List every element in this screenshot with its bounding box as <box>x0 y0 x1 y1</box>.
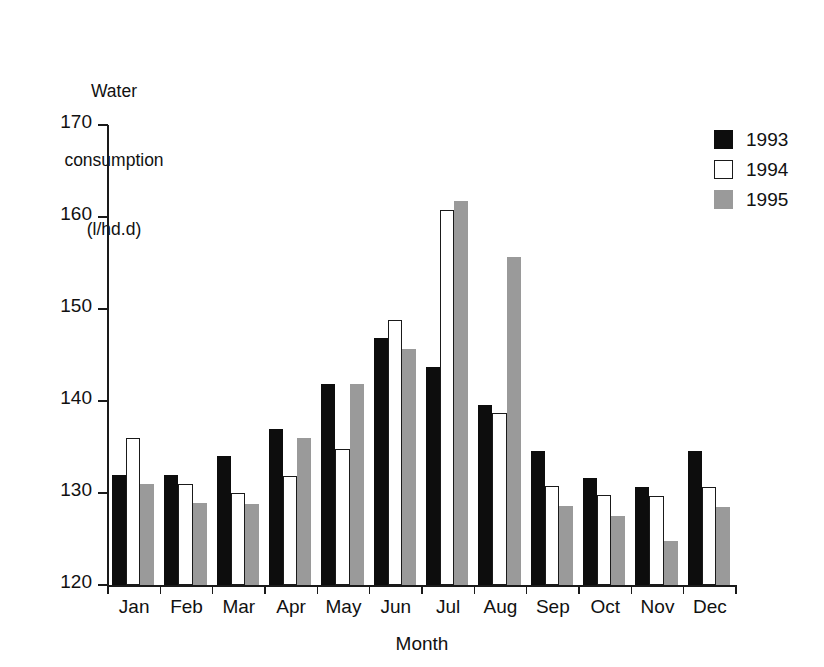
bar-feb-1995 <box>193 503 207 585</box>
x-axis-label-apr: Apr <box>276 597 306 617</box>
y-axis-title-line-1: Water <box>44 80 184 103</box>
x-tick-4 <box>317 585 319 594</box>
legend-label-1993: 1993 <box>746 130 788 149</box>
legend-item-1994[interactable]: 1994 <box>714 156 818 183</box>
bar-group-jun <box>374 125 417 585</box>
bar-aug-1993 <box>478 405 492 585</box>
bar-apr-1995 <box>297 438 311 585</box>
bar-jun-1994 <box>388 320 402 585</box>
bar-group-may <box>321 125 364 585</box>
water-consumption-bar-chart: Water consumption (l/hd.d) 1701601501401… <box>0 0 824 667</box>
bar-mar-1994 <box>231 493 245 585</box>
y-axis-line <box>107 125 109 586</box>
bar-nov-1995 <box>664 541 678 585</box>
x-tick-10 <box>631 585 633 594</box>
bar-aug-1995 <box>507 257 521 585</box>
y-tick-label-160: 160 <box>60 204 92 223</box>
bar-sep-1993 <box>531 451 545 585</box>
legend-swatch-1994-icon <box>714 160 733 179</box>
x-axis-label-jan: Jan <box>119 597 150 617</box>
bar-group-feb <box>164 125 207 585</box>
x-tick-7 <box>474 585 476 594</box>
bar-aug-1994 <box>492 413 506 585</box>
y-tick-label-130: 130 <box>60 480 92 499</box>
x-tick-5 <box>369 585 371 594</box>
y-tick-170: 170 <box>98 124 108 126</box>
bar-jan-1995 <box>140 484 154 585</box>
x-axis-label-dec: Dec <box>693 597 727 617</box>
legend-item-1995[interactable]: 1995 <box>714 186 818 213</box>
bar-may-1993 <box>321 384 335 585</box>
bar-group-sep <box>531 125 574 585</box>
bar-oct-1994 <box>597 495 611 585</box>
bar-dec-1995 <box>716 507 730 585</box>
bar-group-aug <box>478 125 521 585</box>
bar-feb-1994 <box>178 484 192 585</box>
y-tick-140: 140 <box>98 400 108 402</box>
bar-oct-1995 <box>611 516 625 585</box>
y-tick-label-170: 170 <box>60 112 92 131</box>
bar-dec-1993 <box>688 451 702 585</box>
bar-jun-1995 <box>402 349 416 585</box>
bar-group-mar <box>217 125 260 585</box>
legend-swatch-1993-icon <box>714 130 733 149</box>
bar-group-nov <box>635 125 678 585</box>
bar-group-apr <box>269 125 312 585</box>
bar-apr-1994 <box>283 476 297 585</box>
x-axis-label-oct: Oct <box>590 597 620 617</box>
y-tick-130: 130 <box>98 492 108 494</box>
x-tick-9 <box>578 585 580 594</box>
bar-dec-1994 <box>702 487 716 585</box>
x-axis-label-may: May <box>326 597 362 617</box>
x-axis-label-jun: Jun <box>381 597 412 617</box>
plot-area: 170160150140130120 JanFebMarAprMayJunJul… <box>108 125 736 585</box>
legend-swatch-1995-icon <box>714 190 733 209</box>
y-tick-160: 160 <box>98 216 108 218</box>
x-axis-label-jul: Jul <box>436 597 460 617</box>
bar-nov-1993 <box>635 487 649 585</box>
y-tick-150: 150 <box>98 308 108 310</box>
x-tick-11 <box>683 585 685 594</box>
bar-jan-1994 <box>126 438 140 585</box>
bar-jul-1994 <box>440 210 454 585</box>
x-tick-2 <box>212 585 214 594</box>
bar-may-1995 <box>350 384 364 585</box>
x-axis-label-aug: Aug <box>484 597 518 617</box>
x-axis-title: Month <box>108 633 736 655</box>
bar-sep-1994 <box>545 486 559 585</box>
x-tick-3 <box>264 585 266 594</box>
bar-apr-1993 <box>269 429 283 585</box>
bar-mar-1993 <box>217 456 231 585</box>
bar-jan-1993 <box>112 475 126 585</box>
x-axis-label-sep: Sep <box>536 597 570 617</box>
x-axis-label-nov: Nov <box>641 597 675 617</box>
legend-item-1993[interactable]: 1993 <box>714 126 818 153</box>
y-tick-label-120: 120 <box>60 572 92 591</box>
legend-label-1995: 1995 <box>746 190 788 209</box>
x-tick-0 <box>107 585 109 594</box>
bar-feb-1993 <box>164 475 178 585</box>
bar-mar-1995 <box>245 504 259 585</box>
bar-nov-1994 <box>649 496 663 585</box>
x-tick-8 <box>526 585 528 594</box>
bar-group-oct <box>583 125 626 585</box>
bar-group-jan <box>112 125 155 585</box>
bar-group-jul <box>426 125 469 585</box>
bar-jul-1993 <box>426 367 440 585</box>
x-tick-1 <box>160 585 162 594</box>
x-axis-label-feb: Feb <box>170 597 203 617</box>
x-tick-12 <box>735 585 737 594</box>
bar-jul-1995 <box>454 201 468 585</box>
bar-may-1994 <box>335 449 349 585</box>
x-axis-label-mar: Mar <box>222 597 255 617</box>
y-tick-label-140: 140 <box>60 388 92 407</box>
bar-jun-1993 <box>374 338 388 585</box>
bar-oct-1993 <box>583 478 597 585</box>
x-tick-6 <box>421 585 423 594</box>
bar-sep-1995 <box>559 506 573 585</box>
y-tick-label-150: 150 <box>60 296 92 315</box>
legend-label-1994: 1994 <box>746 160 788 179</box>
legend: 199319941995 <box>714 126 818 216</box>
